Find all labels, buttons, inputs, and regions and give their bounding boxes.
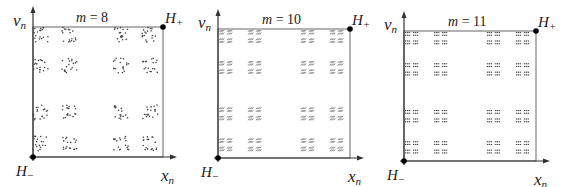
x-axis-label-subscript: n <box>169 174 175 186</box>
h-plus-label-main: H <box>538 14 549 30</box>
x-axis-label-subscript: n <box>356 175 362 187</box>
x-axis-arrow-icon <box>357 156 364 161</box>
y-axis-label-subscript: n <box>392 23 398 35</box>
x-axis-label: xn <box>161 167 174 186</box>
title-value: 11 <box>473 14 486 29</box>
phase-box <box>218 29 350 158</box>
title-variable: m <box>448 14 458 29</box>
h-plus-label-main: H <box>352 12 363 28</box>
x-axis-label: xn <box>348 168 361 187</box>
h-minus-label-main: H <box>387 167 398 183</box>
panel-m10 <box>214 9 364 162</box>
title-equals: = <box>86 10 101 25</box>
h-plus-label: H+ <box>165 11 183 28</box>
title-value: 10 <box>287 12 301 27</box>
y-axis-label-subscript: n <box>21 19 27 31</box>
y-axis-label: vn <box>384 16 397 35</box>
attractor-points <box>32 27 158 152</box>
y-axis-arrow-icon <box>402 11 407 18</box>
x-axis-label-subscript: n <box>542 178 548 187</box>
h-plus-label-subscript: + <box>176 16 183 28</box>
title-variable: m <box>76 10 86 25</box>
y-axis-label: vn <box>13 12 26 31</box>
equilibrium-h-minus-marker <box>401 158 407 164</box>
x-axis-label-main: x <box>348 167 356 186</box>
h-minus-label-main: H <box>16 163 27 179</box>
panel-m8 <box>29 6 177 161</box>
h-minus-label-subscript: − <box>27 169 34 181</box>
x-axis-label-main: x <box>161 166 169 185</box>
attractor-points <box>219 30 343 151</box>
title-equals: = <box>458 14 473 29</box>
y-axis-label-main: v <box>198 13 206 32</box>
y-axis-arrow-icon <box>216 9 221 16</box>
panel-m11 <box>400 11 550 165</box>
x-axis-arrow-icon <box>543 159 550 164</box>
panel-title: m = 10 <box>262 13 301 27</box>
y-axis-label: vn <box>198 14 211 33</box>
y-axis-label-subscript: n <box>206 21 212 33</box>
equilibrium-h-minus-marker <box>215 155 221 161</box>
h-plus-label-subscript: + <box>549 20 556 32</box>
x-axis-arrow-icon <box>170 155 177 160</box>
y-axis-label-main: v <box>384 15 392 34</box>
h-plus-label-subscript: + <box>363 18 370 30</box>
h-plus-label-main: H <box>165 10 176 26</box>
title-equals: = <box>272 12 287 27</box>
panel-title: m = 8 <box>76 11 108 25</box>
h-plus-label: H+ <box>538 15 556 32</box>
h-minus-label-main: H <box>201 164 212 180</box>
x-axis-label-main: x <box>534 170 542 187</box>
attractor-points <box>405 32 529 153</box>
panel-title: m = 11 <box>448 15 487 29</box>
y-axis-arrow-icon <box>31 6 36 13</box>
h-minus-label: H− <box>16 164 34 181</box>
equilibrium-h-minus-marker <box>30 154 36 160</box>
x-axis-label: xn <box>534 171 547 187</box>
title-value: 8 <box>101 10 108 25</box>
y-axis-label-main: v <box>13 11 21 30</box>
h-minus-label-subscript: − <box>398 173 405 185</box>
h-minus-label: H− <box>201 165 219 182</box>
h-plus-label: H+ <box>352 13 370 30</box>
title-variable: m <box>262 12 272 27</box>
h-minus-label: H− <box>387 168 405 185</box>
h-minus-label-subscript: − <box>212 170 219 182</box>
